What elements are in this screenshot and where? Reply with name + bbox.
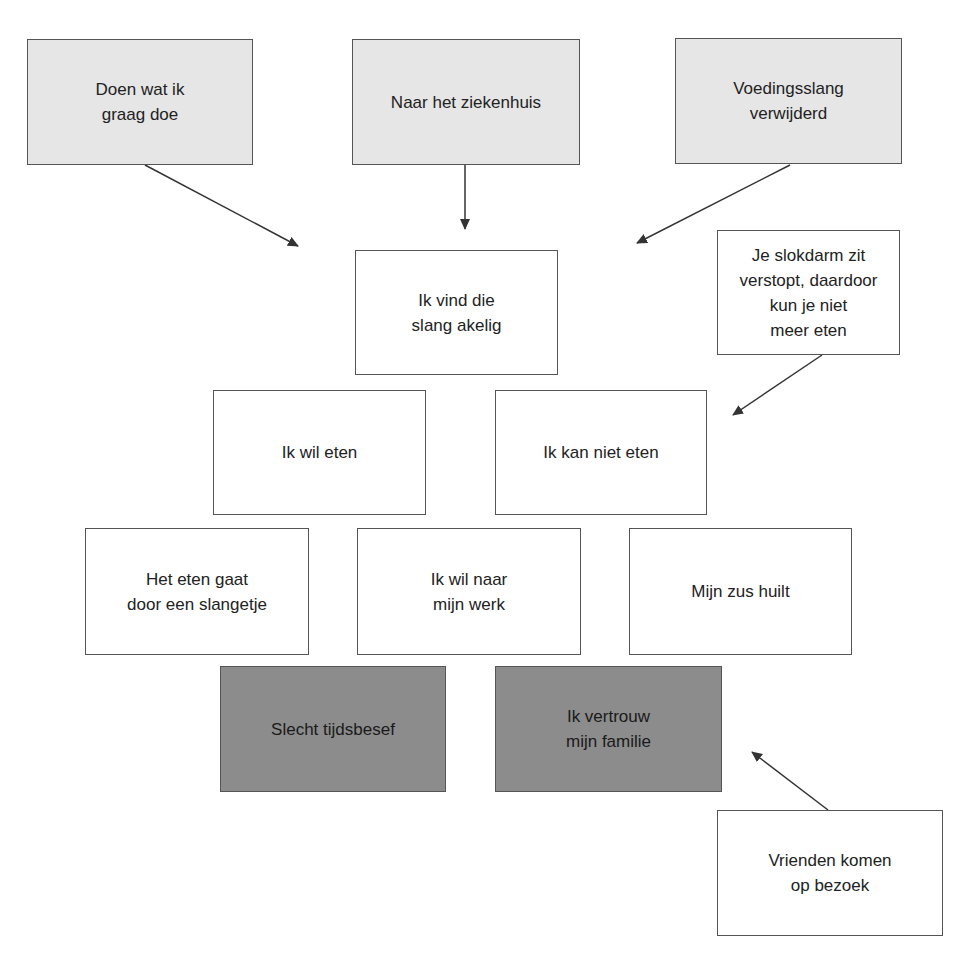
node-eten-door-slangetje: Het eten gaat door een slangetje	[85, 528, 309, 655]
node-mijn-zus-huilt: Mijn zus huilt	[629, 528, 852, 655]
arrow-n5	[733, 355, 822, 415]
node-ik-vind-die-slang-akelig: Ik vind die slang akelig	[355, 250, 558, 375]
node-doen-wat-ik-graag-doe: Doen wat ik graag doe	[27, 39, 253, 165]
node-naar-het-ziekenhuis: Naar het ziekenhuis	[352, 39, 580, 165]
node-vrienden-komen-op-bezoek: Vrienden komen op bezoek	[717, 810, 943, 936]
node-ik-wil-eten: Ik wil eten	[213, 390, 426, 515]
arrow-n1	[145, 165, 298, 246]
node-ik-vertrouw-mijn-familie: Ik vertrouw mijn familie	[495, 666, 722, 792]
node-slokdarm-verstopt: Je slokdarm zit verstopt, daardoor kun j…	[717, 230, 900, 355]
node-slecht-tijdsbesef: Slecht tijdsbesef	[220, 666, 446, 792]
node-voedingsslang-verwijderd: Voedingsslang verwijderd	[675, 38, 902, 164]
diagram-canvas: Doen wat ik graag doe Naar het ziekenhui…	[0, 0, 980, 960]
node-ik-kan-niet-eten: Ik kan niet eten	[495, 390, 707, 515]
arrow-n13	[752, 752, 828, 810]
node-ik-wil-naar-mijn-werk: Ik wil naar mijn werk	[357, 528, 581, 655]
